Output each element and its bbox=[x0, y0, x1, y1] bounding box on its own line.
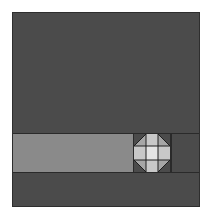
slider-track bbox=[13, 133, 199, 173]
slider-handle-cell[interactable] bbox=[133, 134, 171, 172]
octagon-piece-icon[interactable] bbox=[134, 134, 170, 172]
track-empty-region bbox=[171, 134, 199, 172]
game-board bbox=[12, 12, 200, 207]
track-filled-region bbox=[13, 134, 133, 172]
